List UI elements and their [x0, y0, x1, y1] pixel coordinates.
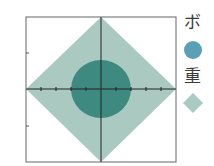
legend-circle-icon — [184, 41, 202, 59]
legend-label-diamond: 重 — [184, 68, 201, 85]
legend-diamond-icon — [183, 93, 203, 113]
legend-label-circle: ボ — [184, 14, 201, 31]
diagram-plot — [0, 0, 214, 166]
